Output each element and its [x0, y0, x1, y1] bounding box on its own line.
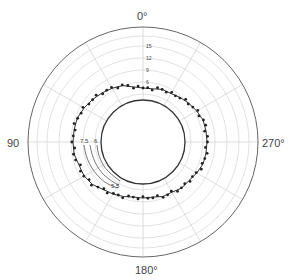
radial-label-15: 15	[146, 43, 152, 49]
angle-label-90: 90	[7, 137, 19, 149]
polar-grid	[28, 27, 258, 257]
radial-label-12: 12	[146, 55, 152, 61]
polar-chart: 0° 90 180° 270° 15 12 9 6 7.5 6 5.5	[0, 0, 294, 280]
contour-label-6: 6	[94, 138, 98, 144]
angle-label-0: 0°	[137, 10, 148, 22]
radial-label-9: 9	[146, 67, 149, 73]
radial-label-6: 6	[146, 79, 149, 85]
contour-label-5-5: 5.5	[111, 183, 120, 189]
angle-label-180: 180°	[135, 264, 158, 276]
contour-label-7-5: 7.5	[80, 138, 89, 144]
angle-label-270: 270°	[262, 137, 285, 149]
